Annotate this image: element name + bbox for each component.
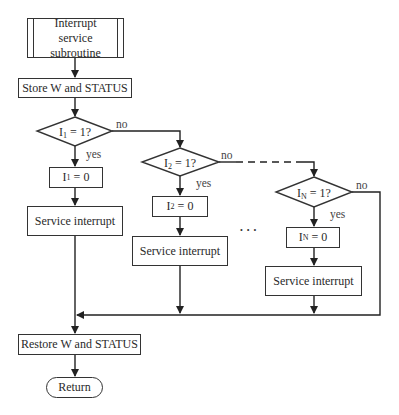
start-line-2: service <box>59 31 93 46</box>
decision1-yes-label: yes <box>86 148 101 160</box>
decision1-label: I1 = 1? <box>59 125 91 140</box>
arrow-decision1-no <box>112 131 180 147</box>
decisionN-label: IN = 1? <box>297 186 331 201</box>
start-line-1: Interrupt <box>55 16 97 31</box>
decisionN-yes-label: yes <box>330 208 345 220</box>
decision2-label: I2 = 1? <box>164 156 196 171</box>
clearN-node: IN = 0 <box>286 227 340 248</box>
store-w-status-node: Store W and STATUS <box>18 78 132 98</box>
decision1-no-label: no <box>116 118 128 130</box>
serviceN-node: Service interrupt <box>265 266 362 296</box>
clear1-node: I1 = 0 <box>49 167 103 188</box>
decision2-yes-label: yes <box>196 177 211 189</box>
decision2-no-label: no <box>221 149 233 161</box>
start-line-3: subroutine <box>50 46 101 61</box>
arrow-decision2-no-end <box>296 162 314 176</box>
restore-w-status-node: Restore W and STATUS <box>18 334 141 355</box>
ellipsis: • • • <box>240 226 257 235</box>
return-terminator: Return <box>46 377 103 398</box>
service1-node: Service interrupt <box>27 206 123 236</box>
clear2-node: I2 = 0 <box>152 196 208 217</box>
decisionN-no-label: no <box>356 179 368 191</box>
service2-node: Service interrupt <box>132 236 228 266</box>
start-subroutine-node: Interrupt service subroutine <box>27 18 124 58</box>
